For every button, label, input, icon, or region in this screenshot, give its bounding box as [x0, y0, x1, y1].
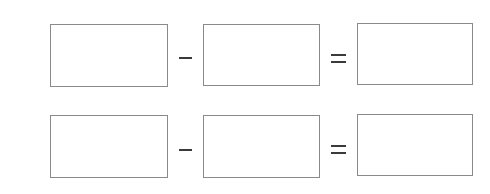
subtrahend-box-1[interactable] — [203, 24, 320, 86]
equals-bar-bottom — [331, 61, 346, 63]
minuend-box-2[interactable] — [50, 115, 168, 178]
minus-sign — [179, 57, 192, 59]
minuend-box-1[interactable] — [50, 24, 168, 87]
difference-box-2[interactable] — [357, 114, 473, 176]
equals-bar-bottom — [331, 152, 346, 154]
difference-box-1[interactable] — [357, 23, 473, 85]
equals-bar-top — [331, 145, 346, 147]
subtrahend-box-2[interactable] — [203, 115, 320, 178]
minus-sign — [179, 149, 192, 151]
equals-bar-top — [331, 54, 346, 56]
